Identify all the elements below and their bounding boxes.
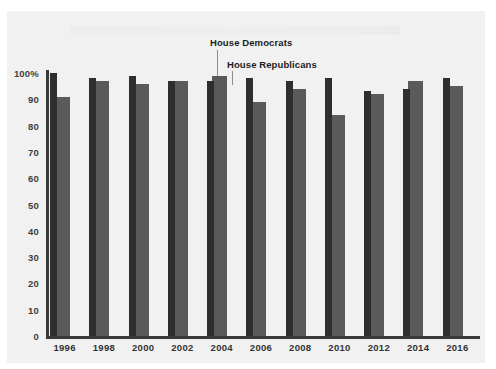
bar-group <box>46 73 85 336</box>
x-axis-tick-label: 2000 <box>132 342 154 353</box>
bar-house-republicans <box>408 81 423 336</box>
leader-line-republicans <box>232 71 233 85</box>
bar-house-republicans <box>134 84 149 336</box>
bar-group <box>439 73 478 336</box>
y-axis-tick-label: 20 <box>28 278 39 289</box>
x-axis-tick-label: 2006 <box>250 342 272 353</box>
x-axis-tick-label: 1998 <box>93 342 115 353</box>
bar-house-republicans <box>330 115 345 336</box>
bar-house-republicans <box>251 102 266 336</box>
bar-house-democrats <box>207 81 214 336</box>
bar-house-republicans <box>291 89 306 336</box>
annotation-house-republicans: House Republicans <box>227 59 317 70</box>
bar-house-democrats <box>89 78 96 336</box>
bar-group <box>242 73 281 336</box>
y-axis-tick-label: 70 <box>28 146 39 157</box>
y-axis-tick-label: 0 <box>34 331 39 342</box>
x-axis-tick-label: 2004 <box>211 342 233 353</box>
y-axis-tick-label: 30 <box>28 252 39 263</box>
chart-page: 0102030405060708090100% House Democrats … <box>0 0 496 369</box>
bar-group <box>282 73 321 336</box>
y-axis-tick-label: 40 <box>28 225 39 236</box>
y-axis-tick-label: 10 <box>28 304 39 315</box>
x-axis-tick-label: 2008 <box>289 342 311 353</box>
bar-house-democrats <box>403 89 410 336</box>
bar-house-democrats <box>50 73 57 336</box>
bar-group <box>360 73 399 336</box>
bar-house-democrats <box>443 78 450 336</box>
panel-right-edge <box>485 11 489 363</box>
bar-house-democrats <box>129 76 136 336</box>
x-axis-tick-label: 1996 <box>53 342 75 353</box>
bar-house-democrats <box>168 81 175 336</box>
x-axis-tick-label: 2014 <box>407 342 429 353</box>
bar-group <box>85 73 124 336</box>
bar-group <box>321 73 360 336</box>
x-axis-tick-label: 2012 <box>368 342 390 353</box>
bar-house-democrats <box>286 81 293 336</box>
y-axis-tick-label: 100% <box>14 68 39 79</box>
bar-house-democrats <box>246 78 253 336</box>
bar-house-republicans <box>173 81 188 336</box>
bar-house-republicans <box>448 86 463 336</box>
y-axis-tick-label: 60 <box>28 173 39 184</box>
bar-house-republicans <box>369 94 384 336</box>
bar-group <box>125 73 164 336</box>
scan-artifact-band <box>70 26 400 35</box>
bar-house-republicans <box>55 97 70 336</box>
bar-house-republicans <box>94 81 109 336</box>
bar-group <box>203 73 242 336</box>
x-axis-tick-label: 2016 <box>446 342 468 353</box>
bar-house-republicans <box>212 76 227 336</box>
annotation-house-democrats: House Democrats <box>210 37 292 48</box>
x-axis-tick-label: 2010 <box>328 342 350 353</box>
y-axis-tick-label: 80 <box>28 120 39 131</box>
x-axis-tick-label: 2002 <box>171 342 193 353</box>
bar-house-democrats <box>364 91 371 336</box>
plot-area: 0102030405060708090100% <box>46 73 478 336</box>
bar-house-democrats <box>325 78 332 336</box>
x-axis-line <box>46 336 480 339</box>
y-axis-tick-label: 50 <box>28 199 39 210</box>
bar-group <box>399 73 438 336</box>
y-axis-tick-label: 90 <box>28 94 39 105</box>
bar-group <box>164 73 203 336</box>
